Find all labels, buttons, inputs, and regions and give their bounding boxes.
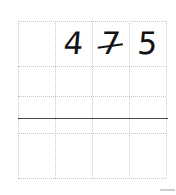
grid-hline-4 [18,178,166,179]
grid-vline-4 [166,21,167,178]
digit-cell-0[interactable]: 4 [53,21,94,66]
digit-value-1: 7 [99,28,121,59]
worksheet-canvas: 4 7 5 [0,0,176,195]
grid-vline-0 [18,21,19,178]
edge-mark [160,189,175,191]
digit-value-0: 4 [62,28,84,59]
digit-cell-2[interactable]: 5 [127,21,168,66]
sum-line [18,118,168,119]
number-grid: 4 7 5 [18,21,166,178]
digit-cell-1[interactable]: 7 [90,21,131,66]
digit-value-2: 5 [136,28,158,59]
